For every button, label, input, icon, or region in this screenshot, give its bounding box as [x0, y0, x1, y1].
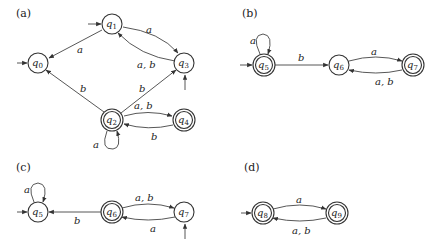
edge-q2-q4	[124, 113, 172, 117]
state-q7: q7	[174, 202, 194, 222]
edge-label-q2-q0: b	[80, 83, 86, 94]
edge-label-q2-q3: b	[139, 83, 145, 94]
panel-c-label: (c)	[16, 161, 31, 174]
edge-label-q2-loop: a	[93, 139, 99, 150]
edge-label-q3-q1: a, b	[137, 59, 156, 70]
edge-label-q6-q7: a, b	[135, 192, 154, 203]
edge-label-q1-q0: a	[77, 44, 83, 55]
edge-label-q6-q5: b	[74, 215, 80, 226]
edge-label-q4-q2: b	[151, 131, 157, 142]
edge-q3-q1	[118, 33, 175, 61]
automata-diagram: (a) a a a, b b b a, b b a q0 q1	[0, 0, 433, 250]
edge-label-q1-q3: a	[146, 24, 152, 35]
edge-q9-q8	[273, 218, 326, 221]
edge-q1-q0	[49, 30, 102, 58]
state-q9-accepting: q9	[326, 202, 348, 224]
edge-q5-loop	[31, 183, 45, 202]
state-q5-accepting: q5	[253, 54, 275, 76]
panel-b-label: (b)	[242, 7, 258, 20]
edge-q6-q7	[122, 204, 174, 208]
edge-label-q7-q6: a	[150, 223, 156, 234]
state-q2-accepting: q2	[101, 109, 123, 131]
state-q1: q1	[102, 14, 122, 34]
edge-q4-q2	[124, 124, 173, 128]
panel-c: (c) a b a, b a q5 q6 q7	[16, 161, 194, 239]
panel-a-label: (a)	[16, 7, 31, 20]
panel-b: (b) a b a a, b q5 q6 q7	[240, 7, 424, 87]
state-q4-accepting: q4	[173, 109, 195, 131]
state-q6-accepting: q6	[101, 201, 123, 223]
edge-q2-q0	[46, 70, 104, 112]
panel-d-label: (d)	[244, 161, 260, 174]
state-q7-accepting: q7	[402, 54, 424, 76]
edge-q8-q9	[273, 205, 326, 209]
edge-q6-q7	[349, 57, 402, 61]
edge-label-q5-q6: b	[298, 52, 304, 63]
edge-q2-loop	[105, 131, 119, 149]
edge-q7-q6	[122, 217, 175, 220]
panel-a: (a) a a a, b b b a, b b a q0 q1	[16, 7, 195, 150]
panel-d: (d) a a, b q8 q9	[241, 161, 348, 236]
state-q5: q5	[28, 202, 48, 222]
state-q6: q6	[329, 55, 349, 75]
edge-label-q9-q8: a, b	[292, 225, 311, 236]
state-q0: q0	[28, 53, 48, 73]
edge-label-q8-q9: a	[296, 194, 302, 205]
state-q3: q3	[174, 53, 194, 73]
edge-label-q5-loop: a	[250, 35, 256, 46]
state-q8-accepting: q8	[252, 202, 274, 224]
edge-label-q5-loop: a	[24, 184, 30, 195]
edge-label-q2-q4: a, b	[134, 100, 153, 111]
edge-q5-loop	[256, 34, 270, 54]
edge-q7-q6	[349, 70, 402, 73]
edge-label-q7-q6: a, b	[375, 76, 394, 87]
edge-label-q6-q7: a	[371, 46, 377, 57]
